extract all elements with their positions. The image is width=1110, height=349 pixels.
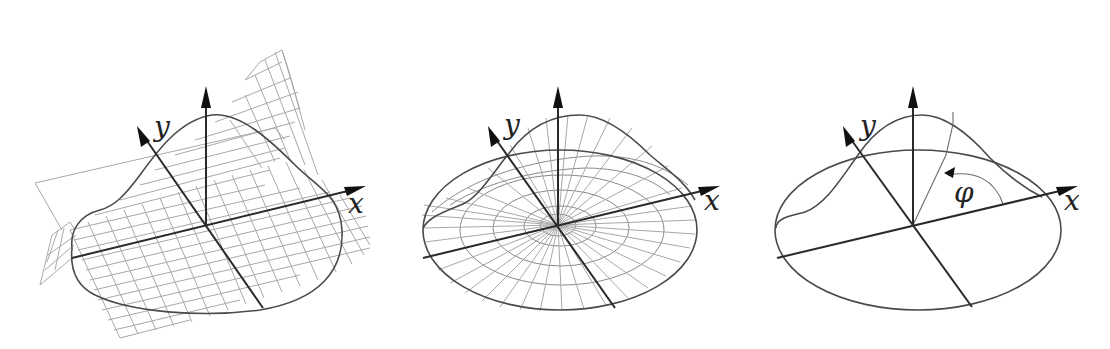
polar-angle-diagram: x y φ bbox=[750, 0, 1110, 349]
x-axis bbox=[72, 190, 352, 258]
figure-polar-grid: x y bbox=[370, 0, 750, 349]
z-axis-arrowhead bbox=[908, 86, 918, 108]
axes bbox=[777, 86, 1078, 307]
cartesian-grid-diagram: x y bbox=[0, 0, 380, 349]
polar-grid-diagram: x y bbox=[370, 0, 750, 349]
figure-polar-angle: x y φ bbox=[750, 0, 1110, 349]
surface-profile-curve bbox=[776, 115, 1042, 228]
axes bbox=[72, 86, 366, 308]
y-axis bbox=[145, 138, 263, 308]
phi-angle-label: φ bbox=[954, 176, 974, 209]
x-axis-label: x bbox=[704, 184, 720, 217]
z-axis-arrowhead bbox=[201, 86, 211, 108]
grid-lines-x bbox=[70, 62, 370, 338]
x-axis-label: x bbox=[348, 187, 364, 220]
y-axis-label: y bbox=[858, 109, 877, 142]
z-axis-arrowhead bbox=[553, 86, 563, 108]
y-axis bbox=[495, 138, 615, 308]
y-axis-label: y bbox=[502, 108, 521, 141]
figure-cartesian-grid: x y bbox=[0, 0, 380, 349]
x-axis bbox=[777, 190, 1064, 258]
x-axis-label: x bbox=[1064, 184, 1080, 217]
y-axis bbox=[850, 138, 972, 307]
base-ellipse bbox=[775, 150, 1061, 310]
rectangular-grid-mesh bbox=[35, 50, 370, 338]
y-axis-label: y bbox=[152, 110, 171, 143]
grid-lines-y bbox=[70, 50, 370, 338]
